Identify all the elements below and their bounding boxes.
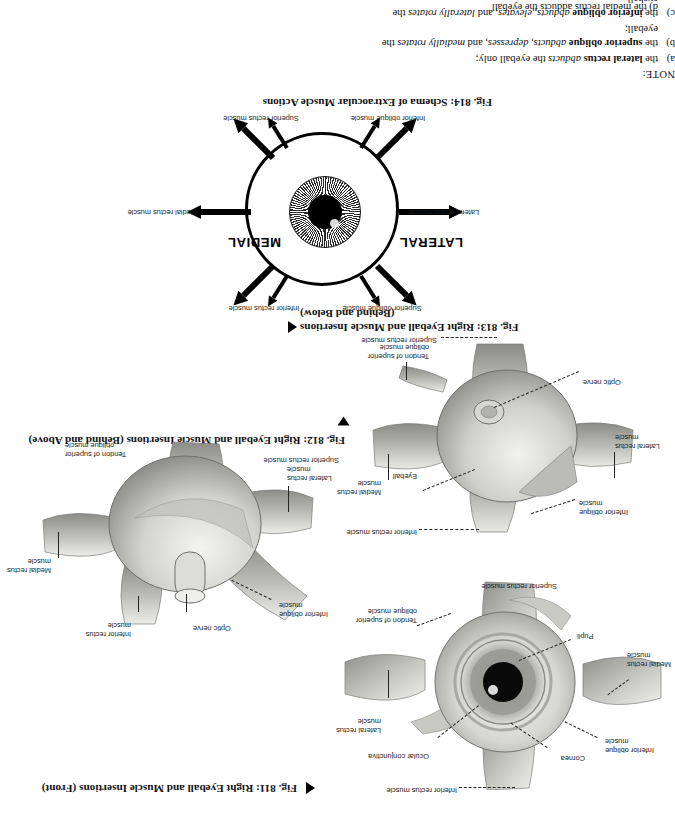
label-813-inferior-oblique: Inferior oblique muscle	[579, 499, 665, 516]
label-814-lateral-rectus: Lateral rectus muscle	[401, 207, 479, 216]
label-812-lateral-rectus: Lateral rectus muscle	[287, 465, 341, 482]
label-811-inferior-rectus: Inferior rectus muscle	[365, 785, 457, 794]
leader-813-lateral-rectus	[614, 452, 615, 478]
figure-caption-814: Fig. 814: Schema of Extraocular Muscle A…	[192, 96, 492, 110]
label-812-inferior-rectus: Inferior rectus muscle	[67, 621, 131, 638]
note-marker-d	[658, 2, 675, 14]
leader-812-inferior-rectus	[138, 596, 139, 612]
label-813-superior-rectus: Superior rectus muscle	[331, 335, 437, 344]
label-814-inferior-oblique: Inferior oblique muscle	[333, 113, 443, 122]
label-812-optic-nerve: Optic nerve	[193, 623, 259, 632]
figure-811-illustration: Inferior rectus muscle Cornea Ocular con…	[330, 580, 675, 790]
pupil-highlight	[330, 219, 339, 228]
label-811-medial-rectus: Medial rectus muscle	[627, 651, 675, 668]
label-813-tendon-superior-oblique: Tendon of superior oblique muscle	[333, 343, 429, 360]
leader-813-superior-rectus	[441, 337, 497, 338]
label-811-inferior-oblique: Inferior oblique muscle	[605, 737, 671, 754]
note-text-d: d) the medial rectus adducts the eyeball	[375, 2, 658, 14]
figure-813-illustration: Inferior rectus muscle Inferior oblique …	[330, 330, 675, 540]
note-text-b: the superior oblique abducts, depresses,…	[375, 22, 658, 50]
note-cutoff-line: d) the medial rectus adducts the eyeball	[375, 2, 675, 14]
label-811-lateral-rectus: Lateral rectus muscle	[331, 717, 381, 734]
label-813-optic-nerve: Optic nerve	[583, 377, 659, 386]
leader-811-inferior-rectus	[459, 787, 515, 788]
label-812-superior-rectus: Superior rectus muscle	[227, 455, 339, 464]
leader-812-optic-nerve	[186, 594, 187, 612]
iris	[289, 176, 361, 248]
leader-812-lateral-rectus	[288, 486, 289, 512]
note-item-b: b) the superior oblique abducts, depress…	[375, 22, 675, 50]
label-814-medial-rectus: Medial rectus muscle	[119, 207, 197, 216]
note-marker-a: a)	[658, 52, 675, 66]
note-text-a: the lateral rectus abducts the eyeball o…	[375, 52, 658, 66]
direction-label-lateral: LATERAL	[399, 235, 463, 250]
leader-811-lateral-rectus	[388, 670, 389, 698]
note-heading: NOTE:	[375, 69, 675, 80]
direction-label-medial: MEDIAL	[228, 235, 281, 250]
note-item-a: a) the lateral rectus abducts the eyebal…	[375, 52, 675, 66]
label-811-superior-rectus: Superior rectus muscle	[441, 581, 557, 590]
caption-marker-812	[338, 417, 350, 426]
page-content: NOTE: a) the lateral rectus abducts the …	[0, 0, 675, 820]
figure-caption-813-line2: (Behind and Below)	[300, 307, 530, 321]
leader-813-tendon-superior-oblique	[406, 362, 407, 380]
caption-marker-813	[288, 321, 297, 333]
label-814-superior-rectus: Superior rectus muscle	[203, 113, 319, 122]
figure-caption-811: Fig. 811: Right Eyeball and Muscle Inser…	[7, 782, 297, 796]
leader-812-medial-rectus	[58, 532, 59, 558]
label-811-cornea: Cornea	[535, 753, 585, 762]
label-811-pupil: Pupil	[577, 631, 625, 640]
note-marker-b: b)	[658, 22, 675, 50]
label-811-ocular-conjunctiva: Ocular conjunctiva	[335, 751, 429, 760]
figure-814-schema: LATERAL MEDIAL	[177, 112, 477, 312]
label-811-tendon-superior-oblique: Tendon of superior oblique muscle	[329, 607, 417, 624]
leader-813-inferior-rectus	[419, 529, 479, 530]
label-813-lateral-rectus: Lateral rectus muscle	[615, 433, 669, 450]
label-812-tendon-superior-oblique: Tendon of superior oblique muscle	[65, 441, 161, 458]
rotated-page-canvas: NOTE: a) the lateral rectus abducts the …	[0, 0, 675, 820]
figure-812-illustration: Optic nerve Inferior rectus muscle Infer…	[0, 440, 345, 640]
caption-marker-811	[306, 782, 315, 794]
label-812-medial-rectus: Medial rectus muscle	[0, 557, 51, 574]
